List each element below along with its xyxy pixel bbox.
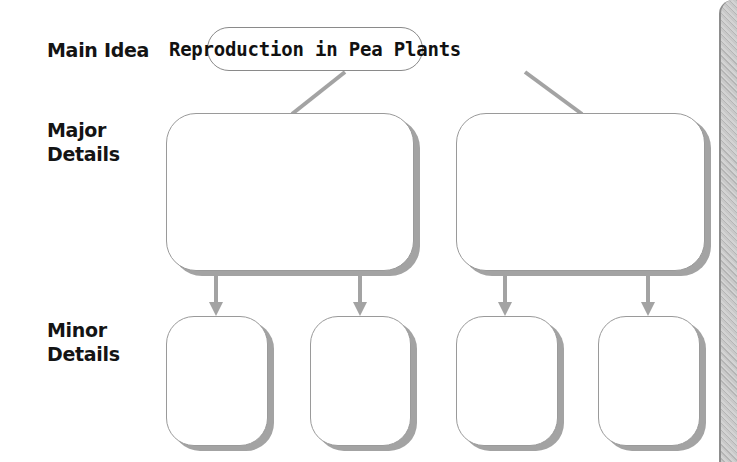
connector-main-to-major-2 xyxy=(525,72,582,114)
minor-detail-box-3[interactable] xyxy=(456,316,558,446)
arrow-head-icon xyxy=(209,302,223,316)
main-idea-box: Reproduction in Pea Plants xyxy=(207,27,423,71)
major-detail-box-1[interactable] xyxy=(166,113,414,271)
arrow-head-icon xyxy=(353,302,367,316)
minor-detail-box-4[interactable] xyxy=(598,316,700,446)
minor-detail-box-2[interactable] xyxy=(310,316,411,446)
page-edge-texture xyxy=(719,0,737,462)
connector-main-to-major-1 xyxy=(292,72,345,114)
major-detail-box-2[interactable] xyxy=(456,113,705,271)
minor-detail-box-1[interactable] xyxy=(166,316,268,446)
arrow-head-icon xyxy=(641,302,655,316)
main-idea-text: Reproduction in Pea Plants xyxy=(169,38,461,60)
arrow-head-icon xyxy=(498,302,512,316)
